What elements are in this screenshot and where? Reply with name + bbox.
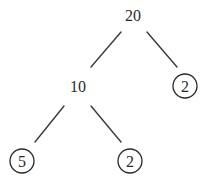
factor-tree-diagram: 20 10 2 5 2 [0,0,213,185]
node-root: 20 [125,7,141,24]
leaf-bottom-left-label: 5 [18,153,26,170]
leaf-bottom-right-label: 2 [126,153,134,170]
leaf-right-label: 2 [181,78,189,95]
node-root-label: 20 [125,7,141,24]
edge-10-to-2 [91,106,121,142]
node-intermediate: 10 [70,78,86,95]
leaf-node-bottom-right: 2 [118,149,142,173]
edge-10-to-5 [35,106,64,142]
edge-20-to-10 [91,32,121,67]
leaf-node-bottom-left: 5 [10,149,34,173]
leaf-node-right: 2 [173,74,197,98]
node-intermediate-label: 10 [70,78,86,95]
edge-20-to-2 [147,32,177,67]
